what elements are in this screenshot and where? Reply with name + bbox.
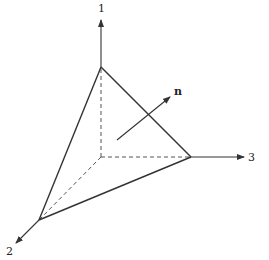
axis-3-label: 3: [248, 151, 255, 164]
hidden-edge-2: [39, 157, 101, 220]
face-edge-top-right: [101, 67, 191, 157]
normal-vector-arrow: [117, 97, 170, 140]
face-edge-bottom: [39, 157, 191, 220]
diagram-canvas: 1 3 2 n: [0, 0, 269, 260]
axis-2-label: 2: [6, 245, 13, 258]
axis-1-label: 1: [98, 2, 105, 15]
axis-2-line: [16, 220, 39, 243]
normal-vector-label: n: [174, 85, 182, 98]
face-edge-top-left: [39, 67, 101, 220]
tetrahedron-diagram: 1 3 2 n: [0, 0, 269, 260]
